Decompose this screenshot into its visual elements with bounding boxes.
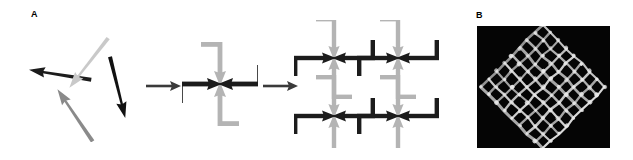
stage-periodic-lattice (294, 20, 442, 148)
pinwheel-cross-svg (182, 38, 258, 128)
pinwheel-arm-north-gray (201, 42, 226, 86)
stage-pinwheel-cross (182, 38, 258, 128)
periodic-lattice-svg (294, 20, 442, 148)
lattice-unit-row2-col2 (357, 75, 439, 148)
figure-root: A (0, 0, 633, 160)
afm-mesh-svg (477, 26, 610, 148)
pinwheel-arm-south-gray (214, 82, 239, 126)
disordered-monomers-svg (18, 24, 148, 142)
pinwheel-arm-east-dark (218, 65, 258, 90)
stage-disordered-monomers (18, 24, 148, 142)
afm-micrograph (477, 26, 610, 148)
monomer-arrow-bottom-gray (53, 86, 97, 142)
panel-label-a: A (31, 10, 38, 19)
pinwheel-arm-west-dark (182, 78, 222, 103)
panel-label-b: B (476, 11, 483, 20)
transition-arrow-1-icon (145, 76, 183, 96)
monomer-arrow-top-light (65, 35, 112, 91)
transition-arrow-1 (145, 76, 183, 96)
lattice-unit-row2-col1 (294, 75, 375, 148)
monomer-arrow-upper-left-dark (28, 65, 92, 85)
monomer-arrow-right-dark (105, 56, 130, 120)
